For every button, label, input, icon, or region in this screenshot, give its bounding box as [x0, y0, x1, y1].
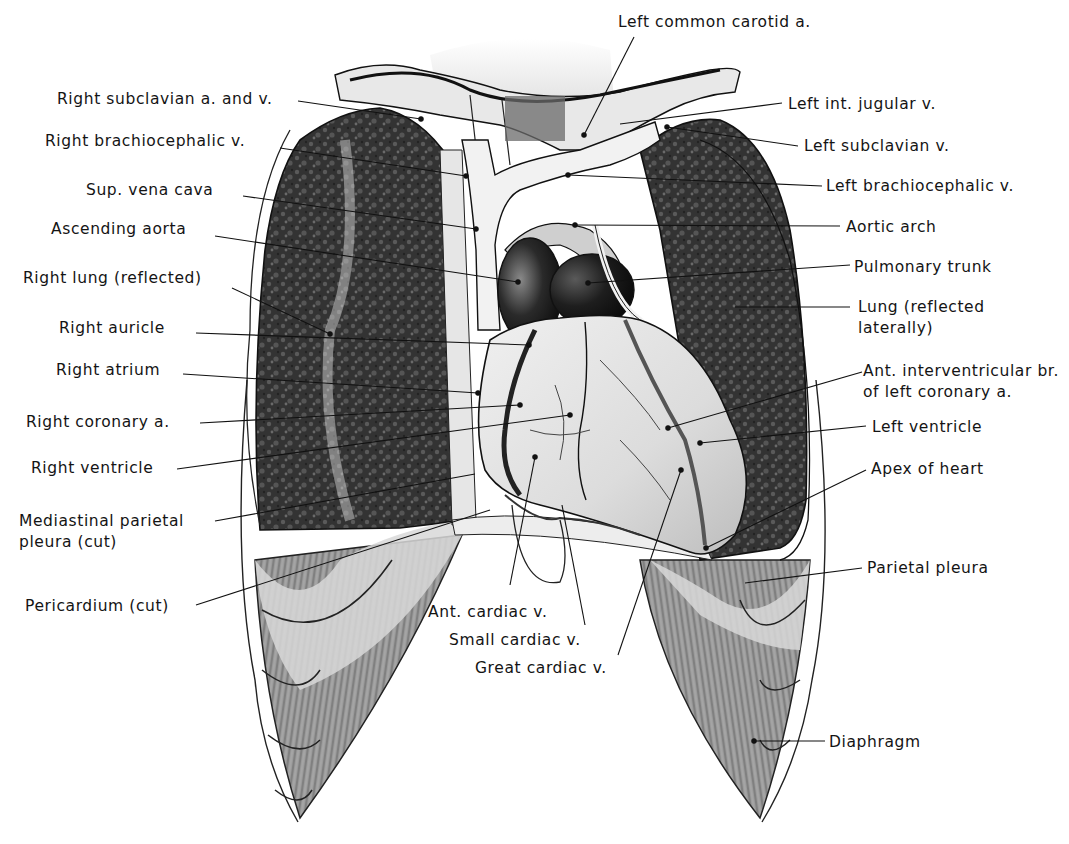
label-ascending-aorta: Ascending aorta — [51, 219, 186, 239]
label-right-coronary: Right coronary a. — [26, 412, 170, 432]
label-pulmonary-trunk: Pulmonary trunk — [854, 257, 992, 277]
label-pericardium: Pericardium (cut) — [25, 596, 169, 616]
label-right-lung: Right lung (reflected) — [23, 268, 202, 288]
anatomy-figure: Right subclavian a. and v. Right brachio… — [0, 0, 1069, 844]
label-mediastinal-pleura: Mediastinal parietal pleura (cut) — [19, 511, 184, 553]
label-diaphragm: Diaphragm — [829, 732, 921, 752]
label-left-common-carotid: Left common carotid a. — [618, 12, 811, 32]
label-right-atrium: Right atrium — [56, 360, 160, 380]
label-right-auricle: Right auricle — [59, 318, 165, 338]
label-small-cardiac: Small cardiac v. — [449, 630, 581, 650]
label-aortic-arch: Aortic arch — [846, 217, 937, 237]
label-sup-vena-cava: Sup. vena cava — [86, 180, 213, 200]
label-lung-reflected: Lung (reflected laterally) — [858, 297, 985, 339]
label-ant-interventricular: Ant. interventricular br. of left corona… — [863, 361, 1059, 403]
label-left-subclavian: Left subclavian v. — [804, 136, 950, 156]
label-right-brachiocephalic: Right brachiocephalic v. — [45, 131, 245, 151]
label-right-subclavian: Right subclavian a. and v. — [57, 89, 272, 109]
label-apex-of-heart: Apex of heart — [871, 459, 984, 479]
label-ant-cardiac: Ant. cardiac v. — [428, 602, 547, 622]
label-left-brachiocephalic: Left brachiocephalic v. — [826, 176, 1014, 196]
label-great-cardiac: Great cardiac v. — [475, 658, 607, 678]
label-left-int-jugular: Left int. jugular v. — [788, 94, 936, 114]
right-lung — [247, 108, 460, 530]
label-right-ventricle: Right ventricle — [31, 458, 153, 478]
label-left-ventricle: Left ventricle — [872, 417, 982, 437]
label-parietal-pleura: Parietal pleura — [867, 558, 989, 578]
